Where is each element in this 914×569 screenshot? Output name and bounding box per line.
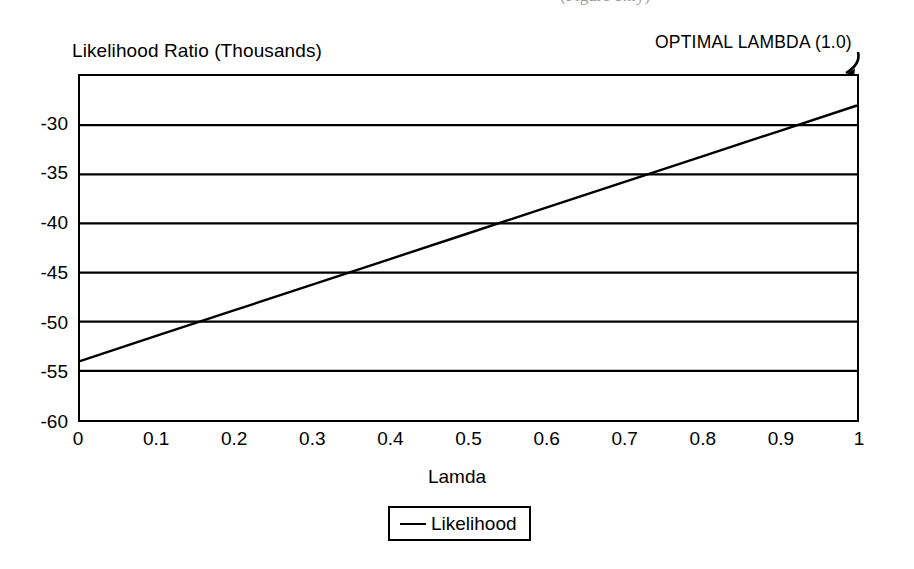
- optimal-lambda-annotation: OPTIMAL LAMBDA (1.0): [655, 32, 852, 53]
- y-axis-tick-label: -35: [16, 162, 68, 184]
- x-axis-tick-label: 1: [824, 428, 894, 450]
- legend-line-swatch: [400, 523, 426, 525]
- y-axis-title: Likelihood Ratio (Thousands): [72, 40, 322, 62]
- y-axis-tick-label: -55: [16, 361, 68, 383]
- x-axis-tick-label: 0.5: [434, 428, 504, 450]
- x-axis-tick-label: 0.9: [746, 428, 816, 450]
- y-axis-tick-label: -50: [16, 312, 68, 334]
- chart-page: (Figure only) Likelihood Ratio (Thousand…: [0, 0, 914, 569]
- x-axis-tick-label: 0.7: [590, 428, 660, 450]
- legend-item-label: Likelihood: [431, 514, 517, 533]
- y-axis-tick-label: -30: [16, 113, 68, 135]
- plot-area: [78, 74, 859, 422]
- x-axis-tick-label: 0.6: [512, 428, 582, 450]
- y-axis-tick-label: -40: [16, 212, 68, 234]
- x-axis-tick-label: 0.3: [277, 428, 347, 450]
- x-axis-tick-label: 0: [43, 428, 113, 450]
- clipped-header-fragment: (Figure only): [560, 0, 860, 8]
- series-likelihood: [80, 76, 857, 420]
- data-line-likelihood: [80, 105, 857, 361]
- x-axis-tick-label: 0.8: [668, 428, 738, 450]
- x-axis-tick-labels: 00.10.20.30.40.50.60.70.80.91: [78, 428, 859, 456]
- x-axis-tick-label: 0.2: [199, 428, 269, 450]
- y-axis-tick-labels: -30-35-40-45-50-55-60: [10, 74, 68, 422]
- x-axis-tick-label: 0.4: [355, 428, 425, 450]
- x-axis-title: Lamda: [0, 466, 914, 488]
- chart-legend: Likelihood: [388, 506, 531, 541]
- y-axis-tick-label: -45: [16, 262, 68, 284]
- x-axis-tick-label: 0.1: [121, 428, 191, 450]
